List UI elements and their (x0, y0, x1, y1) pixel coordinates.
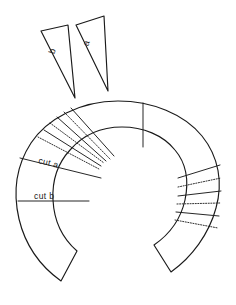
cut-b-label: cut b (34, 191, 54, 201)
pattern-figure: b a (0, 0, 236, 305)
pattern-diagram: b a (0, 0, 236, 305)
